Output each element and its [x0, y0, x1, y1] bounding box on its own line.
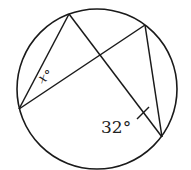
geometry-diagram — [0, 0, 191, 170]
chord-b-c — [19, 25, 145, 109]
circle — [17, 9, 177, 169]
angle-label-32: 32° — [101, 119, 131, 136]
chord-c-d — [145, 25, 162, 137]
